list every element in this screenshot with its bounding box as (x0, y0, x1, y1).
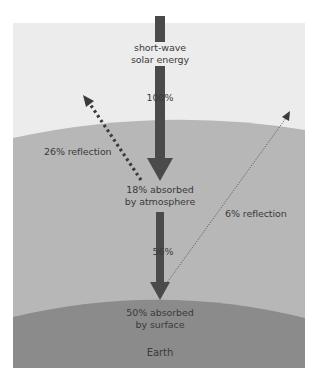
atmosphere-reflection-label: 26% reflection (44, 146, 112, 158)
transmitted-percent-label: 56% (153, 246, 174, 258)
surface-absorbed-label: 50% absorbed by surface (126, 307, 193, 331)
surface-reflection-label: 6% reflection (225, 208, 287, 220)
incoming-energy-line1: short-wave (131, 42, 189, 54)
incoming-energy-label: short-wave solar energy (129, 42, 191, 66)
incoming-energy-line2: solar energy (131, 54, 189, 66)
incoming-arrow-shaft (155, 16, 165, 159)
atmosphere-absorbed-label: 18% absorbed by atmosphere (125, 184, 195, 208)
incoming-percent-label: 100% (147, 92, 174, 104)
atmosphere-absorbed-line1: 18% absorbed (125, 184, 195, 196)
earth-label: Earth (147, 347, 173, 359)
surface-absorbed-line1: 50% absorbed (126, 307, 193, 319)
energy-budget-diagram: short-wave solar energy 100% 26% reflect… (0, 0, 320, 379)
atmosphere-absorbed-line2: by atmosphere (125, 196, 195, 208)
surface-absorbed-line2: by surface (126, 319, 193, 331)
